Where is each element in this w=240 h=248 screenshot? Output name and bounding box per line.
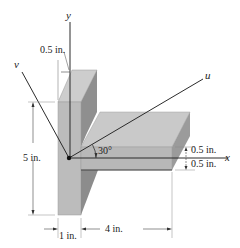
t-section-diagram — [0, 0, 240, 248]
web-thickness-label: 0.5 in. — [40, 45, 65, 55]
web-width-label: 1 in. — [59, 231, 77, 241]
u-axis-label: u — [205, 70, 211, 81]
x-axis-label: x — [225, 152, 230, 163]
origin-point — [67, 156, 71, 160]
y-axis-label: y — [66, 10, 71, 21]
angle-label: 30° — [98, 146, 112, 156]
height-label: 5 in. — [23, 153, 41, 163]
web-lower-side-face — [81, 170, 98, 215]
flange-length-label: 4 in. — [105, 224, 123, 234]
flange-lower-thickness-label: 0.5 in. — [191, 159, 216, 169]
flange-upper-thickness-label: 0.5 in. — [191, 145, 216, 155]
v-axis-label: v — [14, 59, 19, 70]
